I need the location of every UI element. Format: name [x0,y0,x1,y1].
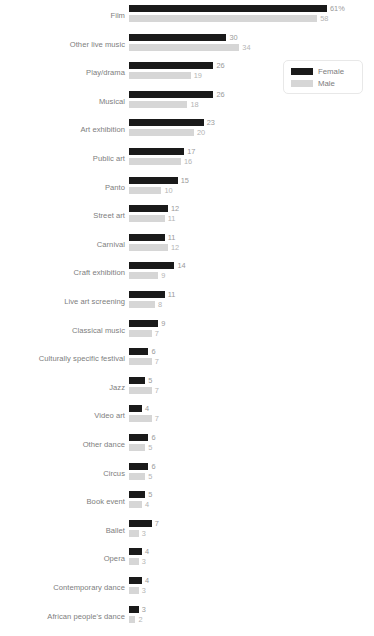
bar-male[interactable] [129,187,161,194]
category-label: Carnival [1,240,125,249]
bar-value-female: 23 [207,118,215,127]
bar-value-female: 4 [145,404,149,413]
bar-female[interactable] [129,234,165,241]
bar-value-female: 26 [216,90,224,99]
bar-female[interactable] [129,548,142,555]
legend-item-female[interactable]: Female [291,66,356,77]
bar-value-male: 3 [142,529,146,538]
bar-value-male: 3 [142,557,146,566]
bar-male[interactable] [129,129,194,136]
legend-item-male[interactable]: Male [291,78,356,89]
bar-female[interactable] [129,491,145,498]
chart-row: African people's dance32 [0,606,374,632]
bar-male[interactable] [129,415,152,422]
category-label: Video art [1,411,125,420]
bar-female[interactable] [129,119,204,126]
bar-female[interactable] [129,606,139,613]
bar-male[interactable] [129,444,145,451]
bar-male[interactable] [129,301,155,308]
bar-male[interactable] [129,72,191,79]
category-label: Street art [1,211,125,220]
bar-value-male: 8 [158,300,162,309]
bar-value-female: 7 [155,519,159,528]
bar-male[interactable] [129,244,168,251]
bar-female[interactable] [129,377,145,384]
bar-female[interactable] [129,463,148,470]
category-label: Film [1,11,125,20]
bar-value-female: 3 [142,605,146,614]
bar-female[interactable] [129,291,165,298]
bar-female[interactable] [129,262,174,269]
legend-label-female: Female [318,67,344,76]
bar-female[interactable] [129,62,213,69]
bar-female[interactable] [129,34,226,41]
category-label: Panto [1,183,125,192]
category-label: Classical music [1,326,125,335]
bar-value-female: 5 [148,376,152,385]
bar-value-female: 11 [168,233,176,242]
bar-male[interactable] [129,616,135,623]
bar-female[interactable] [129,91,213,98]
bar-male[interactable] [129,158,181,165]
chart-row: Book event54 [0,491,374,517]
bar-value-female: 17 [187,147,195,156]
chart-row: Opera43 [0,548,374,574]
category-label: Opera [1,554,125,563]
legend-swatch-male-icon [291,80,313,87]
bar-female[interactable] [129,405,142,412]
bar-value-female: 26 [216,61,224,70]
bar-female[interactable] [129,520,152,527]
bar-female[interactable] [129,205,168,212]
chart-row: Carnival1112 [0,234,374,260]
bar-female[interactable] [129,434,148,441]
bar-male[interactable] [129,558,139,565]
bar-female[interactable] [129,5,327,12]
bar-value-female: 30 [229,33,237,42]
bar-value-male: 7 [155,329,159,338]
bar-value-male: 10 [164,186,172,195]
bar-value-male: 20 [197,128,205,137]
bar-male[interactable] [129,501,142,508]
category-label: Other live music [1,40,125,49]
category-label: Culturally specific festival [1,354,125,363]
bar-male[interactable] [129,587,139,594]
bar-female[interactable] [129,177,178,184]
category-label: Contemporary dance [1,583,125,592]
chart-row: Other live music3034 [0,34,374,60]
bar-value-male: 4 [145,500,149,509]
chart-row: Ballet73 [0,520,374,546]
bar-value-male: 7 [155,357,159,366]
bar-male[interactable] [129,473,145,480]
bar-female[interactable] [129,577,142,584]
bar-male[interactable] [129,15,317,22]
category-label: Ballet [1,526,125,535]
bar-value-female: 61% [330,4,345,13]
bar-male[interactable] [129,330,152,337]
chart-row: Jazz57 [0,377,374,403]
chart-row: Craft exhibition149 [0,262,374,288]
bar-value-female: 9 [161,319,165,328]
bar-male[interactable] [129,101,187,108]
bar-value-male: 58 [320,14,328,23]
chart-row: Panto1510 [0,177,374,203]
bar-male[interactable] [129,44,239,51]
legend-swatch-female-icon [291,68,313,75]
bar-value-male: 16 [184,157,192,166]
chart-row: Film61%58 [0,5,374,31]
bar-female[interactable] [129,348,148,355]
bar-female[interactable] [129,320,158,327]
bar-value-male: 34 [242,43,250,52]
bar-value-male: 3 [142,586,146,595]
bar-male[interactable] [129,387,152,394]
category-label: Craft exhibition [1,268,125,277]
category-label: African people's dance [1,612,125,621]
bar-female[interactable] [129,148,184,155]
bar-value-male: 12 [171,243,179,252]
bar-male[interactable] [129,215,165,222]
bar-value-female: 11 [168,290,176,299]
chart-row: Live art screening118 [0,291,374,317]
category-label: Other dance [1,440,125,449]
bar-male[interactable] [129,530,139,537]
bar-male[interactable] [129,358,152,365]
bar-male[interactable] [129,272,158,279]
